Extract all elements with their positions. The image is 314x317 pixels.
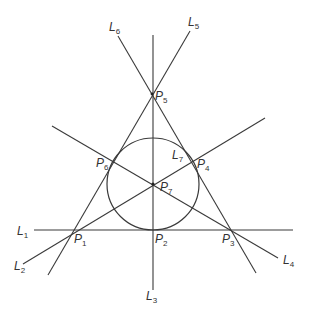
label-L7: L7 [172,148,184,164]
label-L4: L4 [283,253,295,269]
point-dot-P7 [151,182,154,185]
label-L3: L3 [146,289,158,305]
label-P4: P4 [197,157,210,173]
label-P7: P7 [160,180,173,196]
label-L5: L5 [188,15,200,31]
label-P1: P1 [74,232,87,248]
fano-plane-diagram: L1 L2 L3 L4 L5 L6 L7 P1 P2 P3 P4 P5 P6 P… [0,0,314,317]
line-L6 [118,36,256,273]
label-L6: L6 [109,20,121,36]
label-P2: P2 [155,232,168,248]
label-P5: P5 [155,89,168,105]
label-L1: L1 [17,224,29,240]
point-dot-P5 [151,93,154,96]
label-L2: L2 [14,259,26,275]
